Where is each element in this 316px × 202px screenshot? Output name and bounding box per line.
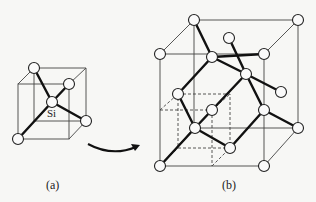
si-atom-label: Si [47,107,56,119]
panel-a-cube [13,63,92,145]
panel-b-label: (b) [222,178,236,193]
silicon-crystal-diagram [0,0,316,202]
panel-b-cube [155,15,304,172]
curved-arrow-icon [88,144,140,151]
panel-a-label: (a) [46,178,59,193]
